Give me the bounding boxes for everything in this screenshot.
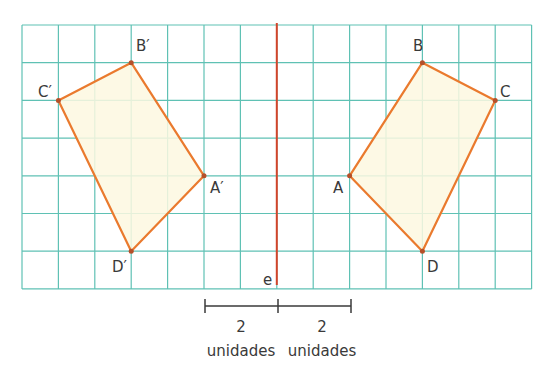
- original-quadrilateral: [350, 63, 496, 252]
- label-a: A: [333, 179, 344, 197]
- label-c: C: [500, 83, 510, 101]
- label-c-prime: C′: [38, 83, 52, 101]
- scale-bar: [205, 299, 351, 313]
- scale-right-value: 2: [317, 318, 327, 336]
- reflection-diagram: B′ C′ A′ D′ e B C A D 2 unidades 2 unida…: [0, 0, 550, 370]
- label-d-prime: D′: [112, 258, 128, 276]
- reflected-quadrilateral: [58, 63, 204, 252]
- label-d: D: [427, 258, 439, 276]
- label-axis-e: e: [263, 271, 272, 289]
- scale-left-unit: unidades: [207, 342, 276, 360]
- label-b: B: [413, 37, 423, 55]
- label-b-prime: B′: [136, 37, 150, 55]
- scale-left-value: 2: [236, 318, 246, 336]
- scale-right-unit: unidades: [288, 342, 357, 360]
- label-a-prime: A′: [210, 179, 224, 197]
